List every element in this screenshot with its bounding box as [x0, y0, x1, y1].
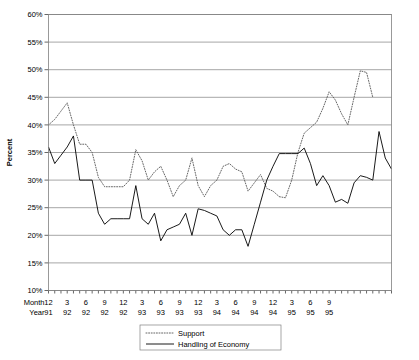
x-tick-year-label: 92	[82, 308, 90, 317]
x-tick-month-label: 3	[215, 298, 219, 307]
x-tick-year-label: 93	[175, 308, 183, 317]
x-tick-month-label: 9	[327, 298, 331, 307]
y-tick-label: 50%	[27, 65, 42, 74]
x-tick-year-label: 94	[231, 308, 239, 317]
y-tick-label: 15%	[27, 259, 42, 268]
y-tick-label: 55%	[27, 38, 42, 47]
y-tick-label: 40%	[27, 121, 42, 130]
y-axis-title: Percent	[5, 138, 14, 166]
x-axis-row-label: Month	[24, 298, 45, 307]
y-tick-label: 60%	[27, 10, 42, 19]
x-axis-row-label: Year	[29, 308, 45, 317]
x-tick-month-label: 6	[159, 298, 163, 307]
x-tick-month-label: 9	[177, 298, 181, 307]
x-tick-month-label: 6	[234, 298, 238, 307]
x-tick-year-label: 92	[100, 308, 108, 317]
y-tick-label: 20%	[27, 231, 42, 240]
x-axis-ticks	[49, 291, 392, 294]
legend-label: Handling of Economy	[178, 340, 250, 349]
x-tick-month-label: 6	[308, 298, 312, 307]
chart-container: 60%55%50%45%40%35%30%25%20%15%10% 129139…	[0, 0, 419, 360]
legend-label: Support	[178, 329, 205, 338]
x-tick-month-label: 3	[290, 298, 294, 307]
x-tick-month-label: 3	[140, 298, 144, 307]
y-axis-ticks: 60%55%50%45%40%35%30%25%20%15%10%	[27, 10, 48, 295]
x-tick-year-label: 92	[63, 308, 71, 317]
y-tick-label: 35%	[27, 148, 42, 157]
x-tick-year-label: 92	[119, 308, 127, 317]
y-tick-label: 10%	[27, 286, 42, 295]
x-tick-year-label: 94	[213, 308, 221, 317]
x-tick-month-label: 12	[269, 298, 277, 307]
x-tick-month-label: 3	[65, 298, 69, 307]
x-tick-year-label: 93	[138, 308, 146, 317]
x-tick-month-label: 12	[44, 298, 52, 307]
line-chart: 60%55%50%45%40%35%30%25%20%15%10% 129139…	[0, 0, 419, 360]
x-tick-year-label: 93	[194, 308, 202, 317]
x-tick-month-label: 9	[103, 298, 107, 307]
x-tick-year-label: 94	[269, 308, 277, 317]
series-line-support	[49, 71, 373, 198]
x-tick-month-label: 12	[194, 298, 202, 307]
x-tick-year-label: 95	[306, 308, 314, 317]
x-tick-year-label: 95	[288, 308, 296, 317]
x-tick-month-label: 9	[252, 298, 256, 307]
x-tick-month-label: 6	[84, 298, 88, 307]
x-tick-month-label: 12	[119, 298, 127, 307]
x-axis-labels: 1291392692992129239369399312933946949941…	[44, 298, 333, 317]
x-tick-year-label: 94	[250, 308, 258, 317]
x-axis-row-headers: MonthYear	[24, 298, 45, 317]
chart-legend: SupportHandling of Economy	[140, 325, 281, 350]
series-line-handling-of-economy	[49, 132, 392, 247]
y-tick-label: 25%	[27, 203, 42, 212]
x-tick-year-label: 93	[157, 308, 165, 317]
x-tick-year-label: 95	[325, 308, 333, 317]
x-tick-year-label: 91	[44, 308, 52, 317]
gridlines	[49, 15, 392, 291]
y-tick-label: 30%	[27, 176, 42, 185]
y-tick-label: 45%	[27, 93, 42, 102]
